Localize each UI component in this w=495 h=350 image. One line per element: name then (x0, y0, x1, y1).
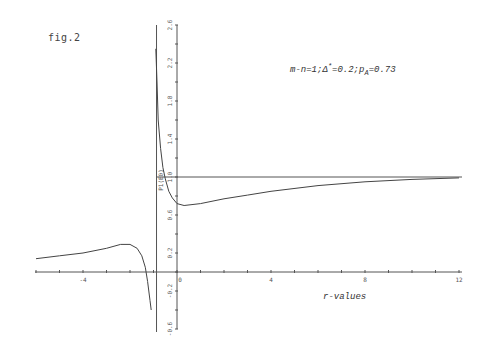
curve-left-branch (36, 244, 151, 310)
x-tick-label: -4 (79, 276, 87, 283)
y-tick-label: 1.4 (166, 133, 173, 144)
y-tick-label: 0.6 (166, 209, 173, 220)
curve-right-branch (156, 49, 459, 206)
y-tick-label: 2.2 (166, 57, 173, 68)
y-tick-label: -0.2 (166, 283, 173, 298)
x-tick-label: 12 (455, 276, 463, 283)
y-tick-label: 0.2 (166, 247, 173, 258)
x-tick-label: 8 (363, 276, 367, 283)
y-tick-label: 2.6 (166, 19, 173, 30)
x-tick-label: 0 (178, 276, 182, 283)
plot-area: -404812-0.6-0.20.20.61.01.41.82.22.6P1(E… (0, 0, 495, 350)
x-tick-label: 4 (269, 276, 273, 283)
y-axis-label: P1(E0) (157, 169, 164, 191)
y-tick-label: -0.6 (166, 321, 173, 336)
y-tick-label: 1.8 (166, 95, 173, 106)
